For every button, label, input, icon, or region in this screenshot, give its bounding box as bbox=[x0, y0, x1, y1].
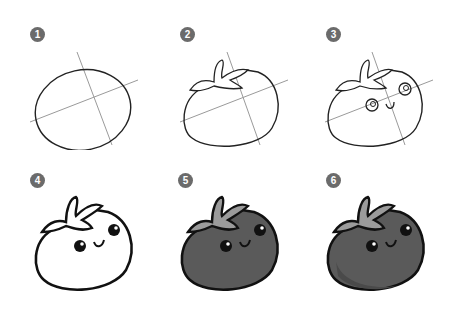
tomato-shaded bbox=[300, 150, 454, 312]
tomato-face-sketch bbox=[300, 0, 454, 150]
right-eye-icon bbox=[108, 224, 120, 236]
left-eye-icon bbox=[366, 240, 378, 252]
leaf-icon bbox=[336, 60, 392, 91]
left-eye-icon bbox=[74, 240, 86, 252]
tomato-colored bbox=[150, 150, 300, 312]
tomato-inked-outline bbox=[0, 150, 150, 312]
tomato-with-stem-sketch bbox=[150, 0, 300, 150]
step-4-panel: 4 bbox=[0, 150, 150, 300]
left-eye-icon bbox=[220, 240, 232, 252]
step-6-panel: 6 bbox=[300, 150, 450, 300]
step-1-panel: 1 bbox=[0, 0, 150, 150]
step-3-panel: 3 bbox=[300, 0, 450, 150]
leaf-icon bbox=[190, 60, 248, 91]
step-2-panel: 2 bbox=[150, 0, 300, 150]
right-eye-icon bbox=[254, 224, 266, 236]
oval-guide-sketch bbox=[0, 0, 150, 150]
right-eye-icon bbox=[400, 224, 412, 236]
step-5-panel: 5 bbox=[150, 150, 300, 300]
